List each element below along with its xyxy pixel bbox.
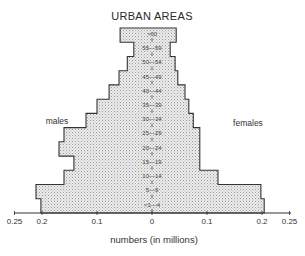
x-tick-label: 0.1 [201, 217, 213, 226]
age-group-label: 5—9 [146, 187, 159, 193]
x-tick-label: 0.2 [256, 217, 268, 226]
x-tick-label: 0 [150, 217, 155, 226]
age-group-label: 15—19 [142, 159, 162, 165]
age-group-label: 25—29 [142, 130, 162, 136]
x-tick-label: 0.1 [91, 217, 103, 226]
age-group-label: 30—34 [142, 116, 162, 122]
chart-title: URBAN AREAS [111, 10, 193, 22]
males-label: males [46, 116, 69, 126]
females-label: females [233, 118, 263, 128]
age-group-label: 35—39 [142, 102, 162, 108]
age-group-label: 40—44 [142, 88, 162, 94]
x-axis-label: numbers (in millions) [110, 234, 198, 245]
x-tick-label: 0.25 [282, 217, 298, 226]
age-group-label: >60 [147, 31, 158, 37]
x-tick-label: 0.2 [36, 217, 48, 226]
age-group-label: 50—54 [142, 59, 162, 65]
age-group-label: <1—4 [144, 202, 161, 208]
population-pyramid-chart: URBAN AREAS >6055—5950—5445—4940—4435—39… [0, 0, 305, 256]
age-group-label: 20—24 [142, 145, 162, 151]
age-group-label: 45—49 [142, 74, 162, 80]
age-group-label: 55—59 [142, 45, 162, 51]
age-group-label: 10—14 [142, 173, 162, 179]
x-tick-label: 0.25 [7, 217, 23, 226]
